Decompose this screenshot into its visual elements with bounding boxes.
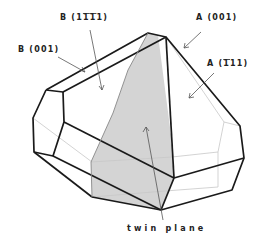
label-b-1bar1bar1: B (1111)	[60, 13, 108, 22]
label-a-001: A (001)	[196, 13, 237, 22]
crystal-diagram: B (1111) B (001) A (001) A (111) twin pl…	[0, 0, 265, 244]
twin-plane-region	[91, 33, 174, 210]
label-b-001: B (001)	[18, 45, 59, 54]
label-a-bar111: A (111)	[207, 59, 248, 68]
label-twin-plane: twin plane	[127, 224, 206, 233]
